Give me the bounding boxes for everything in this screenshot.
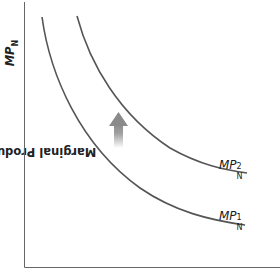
chart-plot [0,0,280,278]
label-mpn2: MP2N [219,158,245,172]
label-mpn1: MP1N [219,209,245,223]
curve-mpn2 [77,16,247,173]
curve-mpn1 [42,17,245,225]
shift-arrow-icon [109,112,128,148]
